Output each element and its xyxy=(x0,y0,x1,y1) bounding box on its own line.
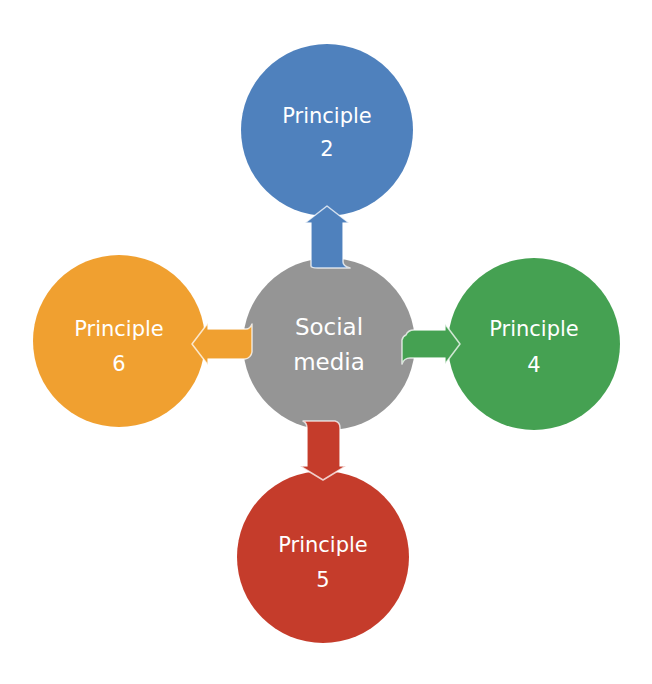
node-circle-principle-4 xyxy=(448,258,620,430)
node-principle-5: Principle 5 xyxy=(237,471,409,643)
node-label-line2: 5 xyxy=(316,568,329,592)
node-circle-principle-6 xyxy=(33,255,205,427)
node-principle-6: Principle 6 xyxy=(33,255,205,427)
center-label-line1: Social xyxy=(295,314,363,340)
arrow-up-icon xyxy=(305,206,350,268)
arrow-down-icon xyxy=(300,421,346,480)
node-label-line2: 6 xyxy=(112,352,125,376)
node-label-line1: Principle xyxy=(278,533,368,557)
node-label-line1: Principle xyxy=(74,317,164,341)
principles-diagram: Principle 2 Principle 4 Principle 5 Prin… xyxy=(0,0,652,684)
node-principle-2: Principle 2 xyxy=(241,44,413,216)
node-circle-principle-2 xyxy=(241,44,413,216)
center-node-social-media xyxy=(243,258,415,430)
node-label-line1: Principle xyxy=(282,104,372,128)
node-circle-principle-5 xyxy=(237,471,409,643)
center-label-line2: media xyxy=(293,349,365,375)
node-label-line1: Principle xyxy=(489,317,579,341)
node-label-line2: 4 xyxy=(527,353,540,377)
node-principle-4: Principle 4 xyxy=(448,258,620,430)
node-label-line2: 2 xyxy=(320,137,333,161)
center-circle xyxy=(243,258,415,430)
